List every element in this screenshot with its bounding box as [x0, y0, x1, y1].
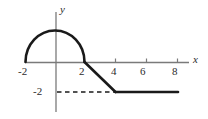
x-tick-label-8: 8 [172, 66, 178, 77]
x-tick-label-neg2: -2 [18, 66, 27, 77]
y-tick-label-neg2: -2 [33, 86, 42, 97]
x-tick-label-4: 4 [111, 66, 117, 77]
y-axis-label: y [60, 4, 65, 15]
curve-semicircle-segment [26, 31, 85, 62]
x-tick-label-2: 2 [79, 66, 85, 77]
plot-area [0, 0, 208, 119]
chart-figure: -2 2 4 6 8 -2 x y [0, 0, 208, 119]
x-tick-label-6: 6 [140, 66, 146, 77]
x-axis-label: x [193, 54, 198, 65]
